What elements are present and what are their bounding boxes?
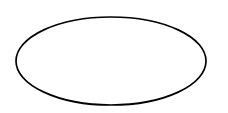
ellipse-shape (16, 17, 206, 105)
diagram-canvas (0, 0, 228, 113)
diagram-svg (0, 0, 228, 113)
